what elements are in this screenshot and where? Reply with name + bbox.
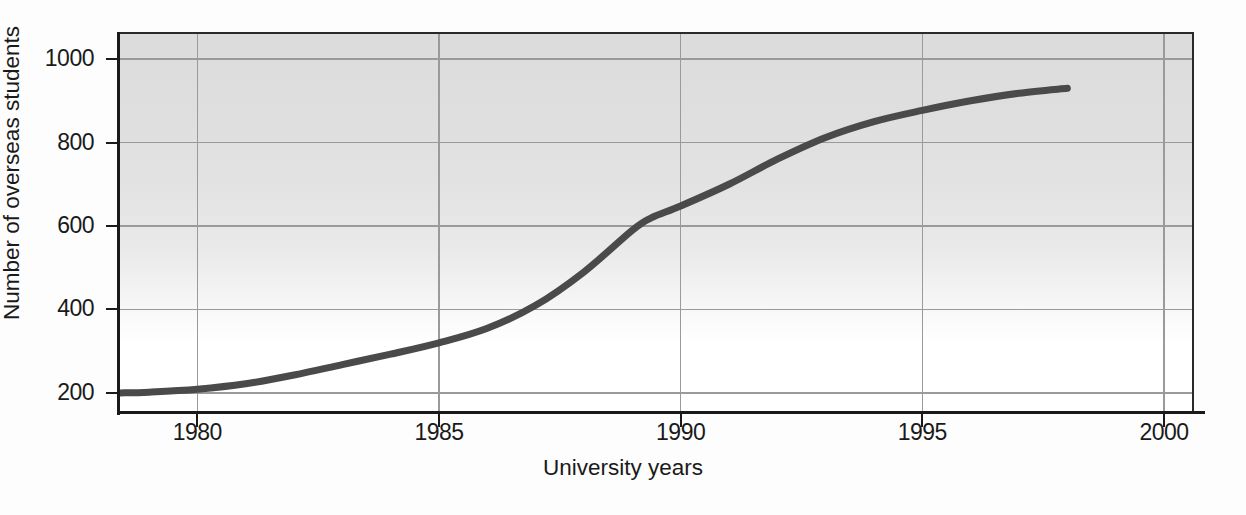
plot-canvas: [120, 34, 1193, 413]
x-tick-mark: [1163, 414, 1165, 427]
x-axis-title: University years: [0, 455, 1246, 481]
plot-right-border: [1192, 32, 1194, 414]
x-tick-mark: [921, 414, 923, 427]
chart-figure: 2004006008001000 19801985199019952000 Nu…: [0, 0, 1246, 515]
series-line-0: [120, 88, 1067, 393]
y-tick-label: 800: [24, 131, 94, 154]
y-tick-mark: [106, 225, 120, 227]
y-axis-line: [117, 32, 120, 415]
y-tick-mark: [106, 58, 120, 60]
y-axis-title: Number of overseas students: [0, 0, 25, 353]
y-tick-mark: [106, 142, 120, 144]
data-series-group: [120, 88, 1067, 393]
plot-area: [120, 34, 1193, 413]
x-axis-line: [117, 411, 1205, 414]
x-tick-mark: [680, 414, 682, 427]
x-tick-mark: [438, 414, 440, 427]
x-tick-mark: [196, 414, 198, 427]
plot-top-border: [118, 32, 1194, 34]
y-tick-label: 1000: [24, 47, 94, 70]
y-tick-label: 600: [24, 214, 94, 237]
y-tick-mark: [106, 392, 120, 394]
y-tick-mark: [106, 308, 120, 310]
y-tick-label: 400: [24, 297, 94, 320]
y-tick-label: 200: [24, 381, 94, 404]
